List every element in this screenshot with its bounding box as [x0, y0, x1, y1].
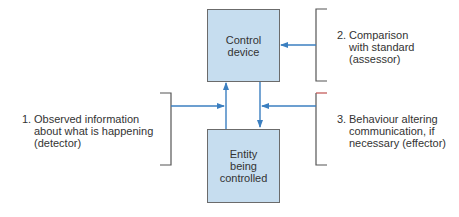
- entity-being-controlled-box: Entity being controlled: [207, 129, 280, 203]
- label-detector: 1. Observed information about what is ha…: [22, 113, 153, 149]
- bracket-detector: [160, 93, 171, 165]
- label-detector-text: Observed information about what is happe…: [22, 113, 153, 149]
- control-device-label: Control device: [226, 34, 261, 58]
- bracket-effector: [316, 93, 327, 165]
- label-assessor-text: Comparison with standard (assessor): [337, 29, 414, 65]
- label-assessor: 2. Comparison with standard (assessor): [337, 29, 414, 65]
- bracket-assessor: [316, 9, 327, 81]
- label-effector-number: 3.: [337, 113, 346, 125]
- label-effector-text: Behaviour altering communication, if nec…: [337, 113, 446, 149]
- label-assessor-number: 2.: [337, 29, 346, 41]
- label-detector-number: 1.: [22, 113, 31, 125]
- entity-label: Entity being controlled: [220, 148, 268, 184]
- label-effector: 3. Behaviour altering communication, if …: [337, 113, 446, 149]
- control-device-box: Control device: [207, 9, 280, 82]
